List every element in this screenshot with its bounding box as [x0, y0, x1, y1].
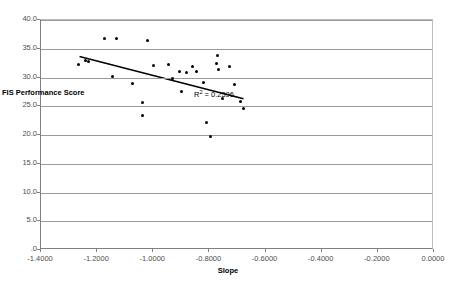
data-point [233, 83, 236, 86]
data-point [103, 37, 106, 40]
gridline [41, 135, 432, 136]
gridline [41, 78, 432, 79]
y-axis-tick-label: 10.0 [3, 188, 37, 196]
y-axis-tick-labels: 40.035.030.025.020.015.010.05.0.0 [0, 19, 37, 249]
data-point [215, 62, 218, 65]
x-axis-tick-label: -0.6000 [243, 255, 287, 263]
data-point [209, 135, 212, 138]
data-point [131, 82, 134, 85]
y-axis-tick-label: 30.0 [3, 73, 37, 81]
trendline [41, 20, 432, 248]
x-axis-tick-mark [40, 249, 41, 252]
scatter-chart: 40.035.030.025.020.015.010.05.0.0 R2 = 0… [0, 0, 456, 287]
plot-area: R2 = 0.2596 [40, 19, 433, 249]
x-axis-tick-mark [321, 249, 322, 252]
data-point [202, 81, 205, 84]
data-point [205, 121, 208, 124]
data-point [216, 54, 219, 57]
data-point [178, 70, 181, 73]
x-axis-tick-mark [377, 249, 378, 252]
data-point [180, 90, 183, 93]
x-axis-tick-mark [152, 249, 153, 252]
x-axis-tick-mark [265, 249, 266, 252]
x-axis-tick-label: -1.0000 [130, 255, 174, 263]
data-point [87, 60, 90, 63]
data-point [217, 68, 220, 71]
x-axis-tick-label: -0.2000 [355, 255, 399, 263]
y-axis-tick-label: 25.0 [3, 101, 37, 109]
gridline [41, 193, 432, 194]
data-point [115, 37, 118, 40]
data-point [77, 63, 80, 66]
gridline [41, 106, 432, 107]
y-axis-tick-label: 5.0 [3, 216, 37, 224]
data-point [195, 70, 198, 73]
data-point [191, 65, 194, 68]
x-axis-tick-label: -1.2000 [74, 255, 118, 263]
y-axis-tick-label: .0 [3, 245, 37, 253]
data-point [242, 107, 245, 110]
x-axis-tick-mark [433, 249, 434, 252]
data-point [185, 71, 188, 74]
y-axis-tick-label: 20.0 [3, 130, 37, 138]
data-point [146, 39, 149, 42]
y-axis-tick-label: 15.0 [3, 159, 37, 167]
y-axis-tick-label: 40.0 [3, 15, 37, 23]
r-squared-label: R2 = 0.2596 [194, 90, 234, 99]
x-axis-tick-label: 0.0000 [411, 255, 455, 263]
x-axis-tick-label: -1.4000 [18, 255, 62, 263]
x-axis-tick-mark [208, 249, 209, 252]
y-axis-tick-label: 35.0 [3, 44, 37, 52]
y-axis-title: FIS Performance Score [2, 88, 85, 97]
data-point [141, 101, 144, 104]
data-point [239, 100, 242, 103]
gridline [41, 164, 432, 165]
x-axis-title: Slope [0, 266, 456, 275]
x-axis-tick-label: -0.8000 [186, 255, 230, 263]
gridline [41, 221, 432, 222]
data-point [152, 64, 155, 67]
data-point [167, 63, 170, 66]
data-point [228, 65, 231, 68]
data-point [141, 114, 144, 117]
gridline [41, 49, 432, 50]
x-axis-tick-mark [96, 249, 97, 252]
x-axis-tick-label: -0.4000 [299, 255, 343, 263]
gridline [41, 20, 432, 21]
